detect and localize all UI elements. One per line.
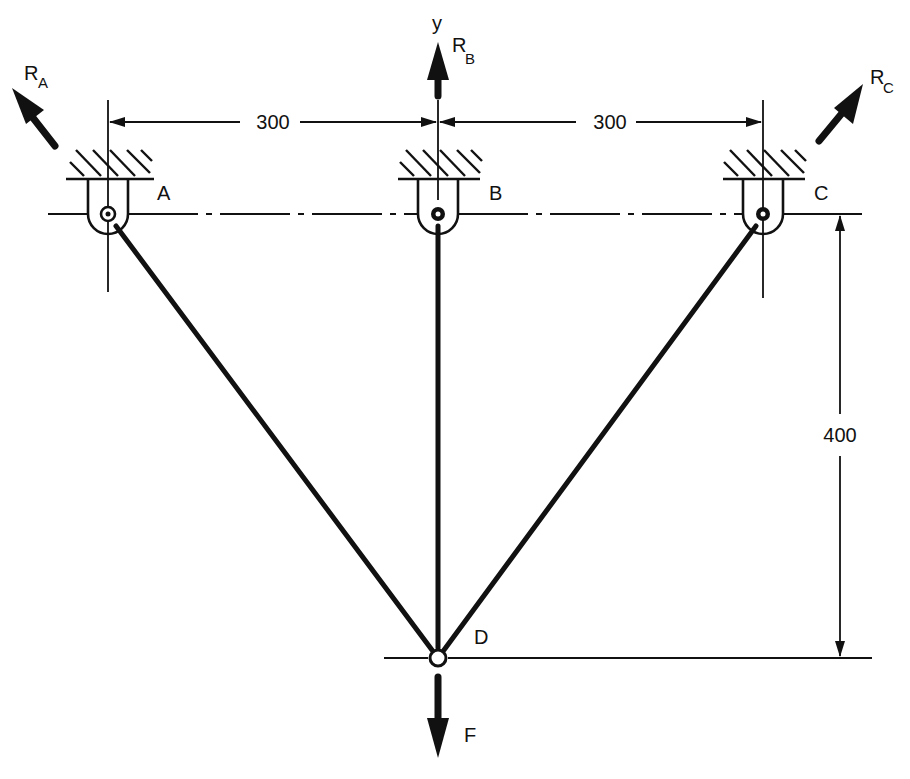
reaction-ra-label: R [24, 62, 38, 84]
load-f: F [427, 677, 476, 758]
reaction-rb-subscript: B [465, 50, 475, 67]
dimension-vertical-label: 400 [823, 424, 856, 446]
dimension-vertical: 400 [823, 216, 856, 656]
reaction-rb-arrowhead-icon [427, 42, 449, 80]
load-f-arrowhead-icon [427, 718, 449, 758]
joint-d-label: D [474, 626, 488, 648]
reaction-rc: R C [819, 66, 894, 141]
support-c: C [723, 150, 828, 234]
dimension-ab-label: 300 [256, 111, 289, 133]
support-a-label: A [157, 182, 171, 204]
reaction-rb: y R B [427, 12, 475, 96]
reaction-ra: R A [12, 62, 55, 146]
load-f-label: F [464, 724, 476, 746]
member-cd [444, 226, 756, 650]
dimension-bc-label: 300 [593, 111, 626, 133]
support-b-label: B [489, 182, 502, 204]
reaction-ra-arrowhead-icon [12, 88, 44, 124]
truss-members [116, 226, 756, 650]
member-ad [116, 226, 432, 650]
support-a: A [66, 150, 171, 234]
support-c-label: C [814, 182, 828, 204]
reaction-rc-subscript: C [883, 79, 894, 96]
truss-diagram: 300 300 400 A [0, 0, 910, 779]
dimension-ab: 300 [110, 111, 436, 133]
reaction-ra-subscript: A [38, 74, 48, 91]
y-axis-label: y [432, 12, 442, 34]
support-b: B [398, 150, 502, 234]
dimension-bc: 300 [440, 111, 761, 133]
